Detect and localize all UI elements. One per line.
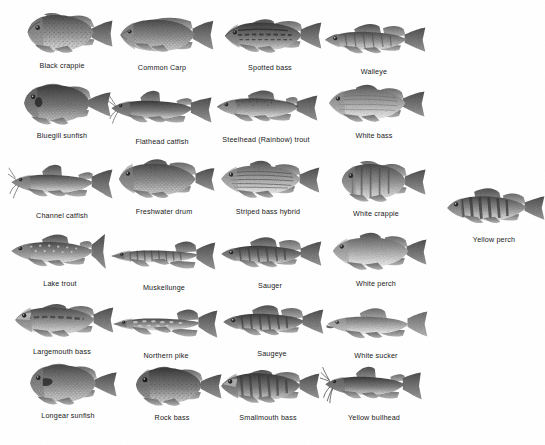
fish-cell-northern-pike[interactable]: Northern pike bbox=[112, 298, 220, 360]
fish-label: Lake trout bbox=[6, 279, 114, 288]
fish-label: Common Carp bbox=[108, 63, 216, 72]
fish-cell-white-sucker[interactable]: White sucker bbox=[322, 298, 430, 360]
fish-identification-chart: Black crappie Common Carp bbox=[0, 0, 545, 445]
fish-cell-sauger[interactable]: Sauger bbox=[216, 228, 324, 290]
saugeye-illustration bbox=[218, 296, 326, 348]
flathead-catfish-illustration bbox=[108, 84, 216, 136]
steelhead-rainbow-trout-illustration bbox=[212, 82, 320, 134]
fish-label: Channel catfish bbox=[8, 211, 116, 220]
fish-label: Saugeye bbox=[218, 349, 326, 358]
fish-label: Northern pike bbox=[112, 351, 220, 360]
fish-cell-rock-bass[interactable]: Rock bass bbox=[118, 360, 226, 422]
fish-label: Freshwater drum bbox=[110, 207, 218, 216]
fish-label: Largemouth bass bbox=[8, 347, 116, 356]
channel-catfish-illustration bbox=[8, 158, 116, 210]
fish-label: White bass bbox=[320, 131, 428, 140]
fish-cell-striped-bass-hybrid[interactable]: Striped bass hybrid bbox=[214, 154, 322, 216]
fish-cell-white-bass[interactable]: White bass bbox=[320, 78, 428, 140]
fish-label: Muskellunge bbox=[110, 283, 218, 292]
white-perch-illustration bbox=[322, 226, 430, 278]
fish-label: Spotted bass bbox=[216, 63, 324, 72]
fish-label: Sauger bbox=[216, 281, 324, 290]
rock-bass-illustration bbox=[118, 360, 226, 412]
northern-pike-illustration bbox=[112, 298, 220, 350]
common-carp-illustration bbox=[108, 10, 216, 62]
bluegill-sunfish-illustration bbox=[8, 78, 116, 130]
fish-cell-lake-trout[interactable]: Lake trout bbox=[6, 226, 114, 288]
white-bass-illustration bbox=[320, 78, 428, 130]
fish-cell-steelhead-trout[interactable]: Steelhead (Rainbow) trout bbox=[212, 82, 320, 144]
largemouth-bass-illustration bbox=[8, 294, 116, 346]
sauger-illustration bbox=[216, 228, 324, 280]
muskellunge-illustration bbox=[110, 230, 218, 282]
lake-trout-illustration bbox=[6, 226, 114, 278]
fish-cell-smallmouth-bass[interactable]: Smallmouth bass bbox=[214, 360, 322, 422]
fish-cell-white-perch[interactable]: White perch bbox=[322, 226, 430, 288]
fish-label: Striped bass hybrid bbox=[214, 207, 322, 216]
fish-label: Bluegill sunfish bbox=[8, 131, 116, 140]
fish-cell-spotted-bass[interactable]: Spotted bass bbox=[216, 10, 324, 72]
walleye-illustration bbox=[320, 14, 428, 66]
yellow-perch-illustration bbox=[440, 182, 545, 234]
smallmouth-bass-illustration bbox=[214, 360, 322, 412]
fish-cell-channel-catfish[interactable]: Channel catfish bbox=[8, 158, 116, 220]
fish-label: Steelhead (Rainbow) trout bbox=[191, 135, 341, 144]
striped-bass-hybrid-illustration bbox=[214, 154, 322, 206]
fish-cell-largemouth-bass[interactable]: Largemouth bass bbox=[8, 294, 116, 356]
fish-cell-white-crappie[interactable]: White crappie bbox=[322, 156, 430, 218]
fish-label: White crappie bbox=[322, 209, 430, 218]
spotted-bass-illustration bbox=[216, 10, 324, 62]
fish-label: Walleye bbox=[320, 67, 428, 76]
white-crappie-illustration bbox=[322, 156, 430, 208]
white-sucker-illustration bbox=[322, 298, 430, 350]
fish-cell-yellow-bullhead[interactable]: Yellow bullhead bbox=[320, 360, 428, 422]
fish-label: Yellow bullhead bbox=[320, 413, 428, 422]
fish-cell-longear-sunfish[interactable]: Longear sunfish bbox=[14, 358, 122, 420]
fish-label: Longear sunfish bbox=[14, 411, 122, 420]
black-crappie-illustration bbox=[8, 8, 116, 60]
freshwater-drum-illustration bbox=[110, 154, 218, 206]
fish-cell-freshwater-drum[interactable]: Freshwater drum bbox=[110, 154, 218, 216]
fish-cell-yellow-perch[interactable]: Yellow perch bbox=[440, 182, 545, 244]
fish-label: Black crappie bbox=[8, 61, 116, 70]
fish-label: White perch bbox=[322, 279, 430, 288]
longear-sunfish-illustration bbox=[14, 358, 122, 410]
fish-cell-black-crappie[interactable]: Black crappie bbox=[8, 8, 116, 70]
fish-cell-muskellunge[interactable]: Muskellunge bbox=[110, 230, 218, 292]
fish-cell-saugeye[interactable]: Saugeye bbox=[218, 296, 326, 358]
fish-cell-common-carp[interactable]: Common Carp bbox=[108, 10, 216, 72]
fish-label: Smallmouth bass bbox=[214, 413, 322, 422]
fish-cell-walleye[interactable]: Walleye bbox=[320, 14, 428, 76]
yellow-bullhead-illustration bbox=[320, 360, 428, 412]
fish-cell-bluegill-sunfish[interactable]: Bluegill sunfish bbox=[8, 78, 116, 140]
fish-label: White sucker bbox=[322, 351, 430, 360]
fish-label: Rock bass bbox=[118, 413, 226, 422]
fish-label: Yellow perch bbox=[440, 235, 545, 244]
